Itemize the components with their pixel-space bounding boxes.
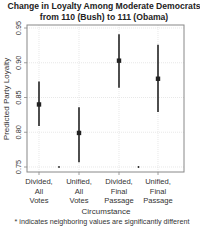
x-axis-label: Circumstance xyxy=(82,207,131,216)
y-tick-label: 0.95 xyxy=(14,21,23,35)
x-category-label: Passage xyxy=(143,196,173,205)
x-category-label: Votes xyxy=(70,196,89,205)
y-tick-label: 0.80 xyxy=(14,125,23,139)
chart: Change in Loyalty Among Moderate Democra… xyxy=(0,0,200,230)
point-estimate xyxy=(156,77,160,81)
data-point-group xyxy=(156,45,160,112)
y-axis: 0.750.800.850.900.95 xyxy=(14,21,27,174)
x-category-label: Divided, xyxy=(105,177,132,186)
y-axis-label: Predicted Party Loyalty xyxy=(2,58,11,140)
point-estimate xyxy=(77,131,81,135)
chart-title-line-1: Change in Loyalty Among Moderate Democra… xyxy=(7,1,200,11)
y-tick-label: 0.90 xyxy=(14,56,23,70)
plot-frame xyxy=(27,25,184,172)
point-estimate xyxy=(37,102,41,106)
x-category-label: Passage xyxy=(104,196,134,205)
significance-asterisk xyxy=(58,166,60,168)
x-category-label: All xyxy=(75,187,84,196)
data-point-group xyxy=(37,82,41,126)
y-tick-label: 0.85 xyxy=(14,90,23,104)
chart-title-line-2: from 110 (Bush) to 111 (Obama) xyxy=(40,12,169,22)
x-axis: Divided,AllVotesUnified,AllVotesDivided,… xyxy=(25,172,173,205)
point-estimate xyxy=(117,58,121,62)
significance-asterisk xyxy=(138,166,140,168)
x-category-label: Unified, xyxy=(66,177,92,186)
gridlines xyxy=(27,25,184,172)
x-category-label: Divided, xyxy=(25,177,52,186)
x-category-label: Final xyxy=(150,187,167,196)
footnote: * indicates neighboring values are signi… xyxy=(15,217,190,226)
data-point-group xyxy=(77,107,81,162)
data-point-group xyxy=(117,34,121,88)
x-category-label: Votes xyxy=(30,196,49,205)
x-category-label: Final xyxy=(111,187,128,196)
data-series xyxy=(37,34,160,162)
x-category-label: All xyxy=(35,187,44,196)
x-category-label: Unified, xyxy=(145,177,171,186)
y-tick-label: 0.75 xyxy=(14,160,23,174)
